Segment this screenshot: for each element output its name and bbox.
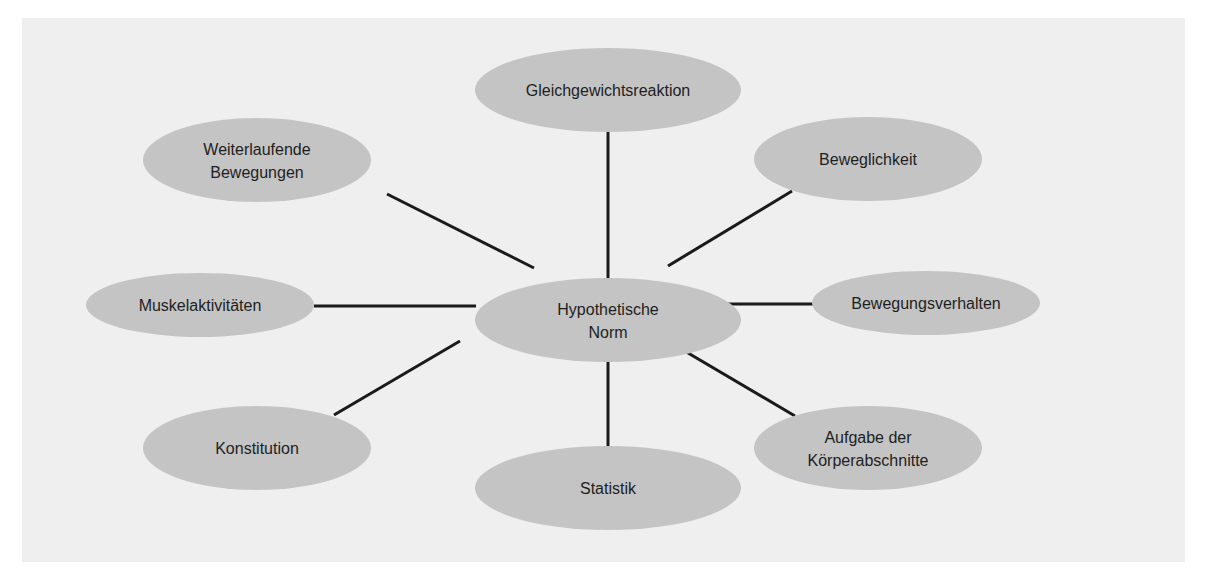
connector-beweglichkeit <box>668 191 792 266</box>
node-label: Hypothetische <box>557 301 658 318</box>
node-ellipse <box>475 278 741 362</box>
node-label: Beweglichkeit <box>819 151 917 168</box>
node-beweglichkeit: Beweglichkeit <box>754 117 982 201</box>
connector-weiterlaufende-bewegungen <box>387 194 534 268</box>
node-label: Körperabschnitte <box>808 452 929 469</box>
node-weiterlaufende-bewegungen: WeiterlaufendeBewegungen <box>143 118 371 202</box>
node-aufgabe-der-koerperabschnitte: Aufgabe derKörperabschnitte <box>754 406 982 490</box>
node-ellipse <box>754 406 982 490</box>
node-ellipse <box>143 118 371 202</box>
node-label: Bewegungen <box>210 164 303 181</box>
concept-nodes: GleichgewichtsreaktionWeiterlaufendeBewe… <box>86 48 1040 530</box>
mind-map-diagram: GleichgewichtsreaktionWeiterlaufendeBewe… <box>0 0 1218 585</box>
node-label: Aufgabe der <box>824 429 912 446</box>
node-label: Gleichgewichtsreaktion <box>526 82 691 99</box>
node-label: Muskelaktivitäten <box>139 297 262 314</box>
node-statistik: Statistik <box>475 446 741 530</box>
node-label: Bewegungsverhalten <box>851 295 1000 312</box>
node-label: Konstitution <box>215 440 299 457</box>
node-konstitution: Konstitution <box>143 406 371 490</box>
connector-konstitution <box>334 341 460 415</box>
center-node-hypothetische-norm: HypothetischeNorm <box>475 278 741 362</box>
node-label: Weiterlaufende <box>203 141 310 158</box>
node-muskelaktivitaeten: Muskelaktivitäten <box>86 273 314 337</box>
node-gleichgewichtsreaktion: Gleichgewichtsreaktion <box>475 48 741 132</box>
node-label: Statistik <box>580 480 637 497</box>
node-label: Norm <box>588 324 627 341</box>
node-bewegungsverhalten: Bewegungsverhalten <box>812 271 1040 335</box>
